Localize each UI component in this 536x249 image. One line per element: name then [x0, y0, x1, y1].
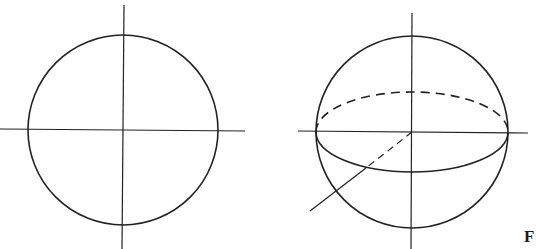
oblique-axis-visible	[310, 168, 366, 211]
circle-diagram	[0, 5, 245, 249]
sphere-diagram	[298, 13, 528, 249]
vertical-axis	[122, 5, 124, 249]
horizontal-axis	[298, 131, 528, 133]
figure-caption-fragment: F	[524, 228, 534, 245]
figure-canvas	[0, 0, 536, 249]
vertical-axis	[411, 13, 412, 249]
oblique-axis-hidden-dashed	[366, 132, 412, 168]
